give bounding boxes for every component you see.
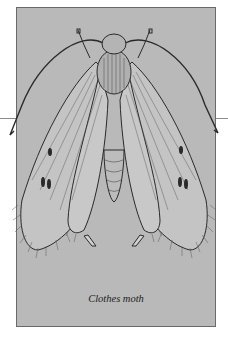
moth-illustration	[0, 0, 228, 337]
figure-caption: Clothes moth	[16, 293, 216, 304]
